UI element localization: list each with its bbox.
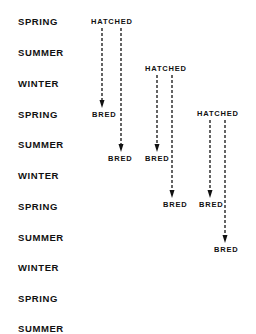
arrows-layer [0,0,256,334]
arrowhead-icon [119,144,124,152]
arrowhead-icon [170,190,175,198]
life-cycle-diagram: SPRING SUMMER WINTER SPRING SUMMER WINTE… [0,0,256,334]
arrowhead-icon [155,144,160,152]
arrowhead-icon [100,100,105,108]
arrowhead-icon [223,235,228,243]
arrowhead-icon [208,190,213,198]
